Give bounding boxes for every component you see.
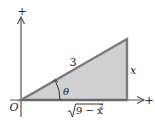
opposite-label: x: [130, 64, 137, 77]
y-axis-plus-label: +: [17, 5, 26, 18]
adjacent-exponent: 2: [99, 103, 103, 111]
angle-label: θ: [63, 86, 69, 97]
triangle: [21, 39, 127, 100]
right-triangle-diagram: + + 3 x θ O 9 − x 2: [0, 0, 155, 124]
adjacent-label: 9 − x 2: [68, 103, 103, 117]
hypotenuse-label: 3: [70, 56, 77, 69]
x-axis-plus-label: +: [144, 94, 153, 107]
origin-label: O: [9, 101, 18, 114]
